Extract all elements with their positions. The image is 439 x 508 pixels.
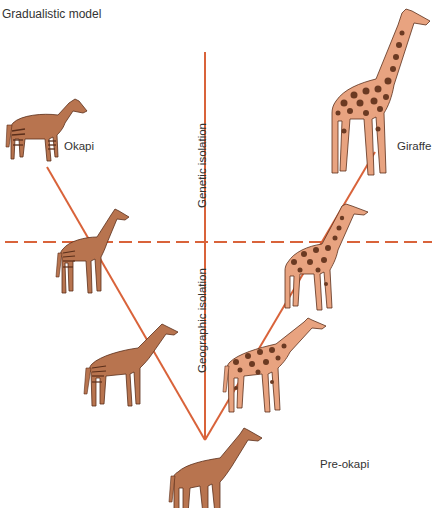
giraffe-intermediate-lower-illustration [222, 312, 332, 417]
pre-okapi-illustration [168, 422, 273, 508]
giraffe-label: Giraffe [397, 140, 431, 152]
giraffe-illustration [330, 3, 438, 183]
okapi-label: Okapi [64, 140, 94, 152]
okapi-intermediate-lower-illustration [82, 318, 182, 413]
geographic-isolation-label: Geographic isolation [196, 268, 208, 373]
pre-okapi-label: Pre-okapi [320, 458, 369, 470]
genetic-isolation-label: Genetic isolation [196, 123, 208, 208]
okapi-illustration [3, 95, 93, 175]
giraffe-intermediate-upper-illustration [282, 200, 382, 315]
okapi-intermediate-upper-illustration [55, 205, 140, 300]
